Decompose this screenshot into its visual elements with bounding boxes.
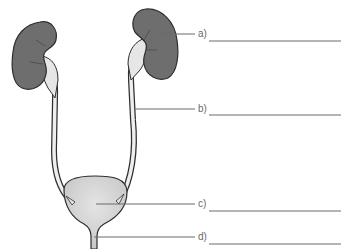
label-c: c) [198,199,206,209]
answer-field-a[interactable] [209,30,341,41]
label-d: d) [198,232,207,242]
answer-field-b[interactable] [209,104,341,115]
label-b: b) [198,104,207,114]
label-a: a) [198,29,207,39]
bladder [64,176,127,249]
right-ureter [120,38,147,200]
answer-lines [209,41,341,244]
left-ureter [41,56,70,200]
answer-field-d[interactable] [209,233,341,244]
answer-field-c[interactable] [209,200,341,211]
